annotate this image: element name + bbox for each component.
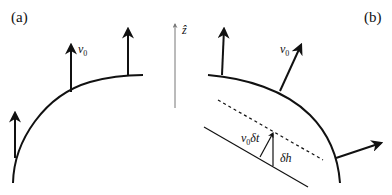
advanced-wavefront-dashed: [218, 100, 323, 160]
v0-label-b: v0: [280, 42, 289, 58]
panel-b-label: (b): [364, 9, 382, 26]
v0-dt-arrow: [260, 133, 273, 157]
delta-h-label: δh: [280, 151, 292, 165]
panel-a: (a) v0 ẑ: [11, 9, 187, 183]
v0-dt-label: v0δt: [241, 131, 260, 147]
wavefront-diagram: (a) v0 ẑ (b) v0 v0δt δh: [0, 0, 392, 195]
panel-a-label: (a): [11, 9, 28, 26]
v0-label-a: v0: [78, 42, 87, 58]
panel-b: (b) v0 v0δt δh: [204, 9, 382, 187]
arrow-b-right: [336, 143, 381, 158]
z-hat-label: ẑ: [181, 23, 187, 37]
arrow-b-left: [222, 29, 224, 75]
wavefront-curve-a: [13, 75, 143, 183]
